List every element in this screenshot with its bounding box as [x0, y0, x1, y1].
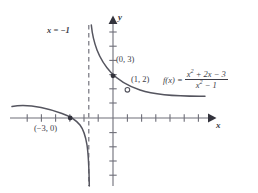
point-y-intercept-dot: [111, 73, 116, 78]
point-x-intercept-dot: [68, 116, 73, 121]
equation-denominator: x2 − 1: [194, 80, 219, 89]
function-equation: f(x) = x2 + 2x − 3 x2 − 1: [163, 70, 228, 90]
equation-lead: f(x) =: [163, 75, 183, 85]
rational-function-figure: x y x = −1 (0, 3) (1, 2) (−3, 0) f(x) = …: [0, 0, 258, 193]
graph-canvas: [0, 0, 258, 193]
equation-numerator: x2 + 2x − 3: [185, 70, 228, 79]
asymptote-label: x = −1: [47, 26, 70, 35]
x-axis-label: x: [216, 121, 221, 130]
y-axis-label: y: [118, 13, 122, 22]
point-hole-open-circle: [125, 88, 130, 93]
y-axis: [109, 16, 118, 187]
y-axis-arrowhead: [109, 16, 118, 25]
point-label-x-intercept: (−3, 0): [34, 124, 57, 133]
point-label-hole: (1, 2): [131, 75, 149, 84]
point-label-y-intercept: (0, 3): [116, 55, 134, 64]
equation-fraction: x2 + 2x − 3 x2 − 1: [185, 70, 228, 90]
